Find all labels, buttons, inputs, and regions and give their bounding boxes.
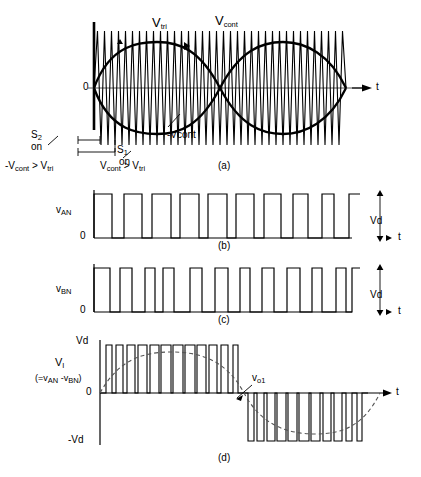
panel-c-axis-arrow bbox=[386, 309, 392, 315]
vtri-label: Vtri bbox=[152, 16, 167, 30]
panel-d-vd-bottom-label: -Vd bbox=[68, 435, 84, 445]
panel-c-t-label: t bbox=[398, 306, 401, 316]
panel-d-vd-top-label: Vd bbox=[76, 336, 88, 346]
s2-condition-label: -Vcont > Vtri bbox=[5, 161, 54, 172]
panel-b-t-label: t bbox=[398, 232, 401, 242]
neg-vcont-label: -Vcont bbox=[167, 130, 196, 140]
s2-label: S2 bbox=[31, 130, 42, 141]
panel-d-zero-label: 0 bbox=[86, 387, 92, 397]
van-pwm-wave bbox=[94, 194, 360, 238]
panel-b-vd-label: Vd bbox=[370, 216, 382, 226]
panel-a-t-label: t bbox=[376, 82, 379, 92]
panel-d-axis-arrow bbox=[383, 390, 392, 397]
panel-b-caption: (b) bbox=[218, 240, 230, 251]
panel-a-caption: (a) bbox=[218, 160, 230, 171]
vbn-label: vBN bbox=[56, 284, 71, 295]
panel-d-plot bbox=[0, 335, 421, 475]
vcont-label: Vcont bbox=[215, 14, 238, 28]
panel-d-t-label: t bbox=[396, 387, 399, 397]
vi-label: VI bbox=[55, 357, 64, 369]
s2-leader bbox=[48, 136, 58, 145]
panel-a-plot bbox=[0, 0, 421, 175]
panel-b-plot bbox=[0, 182, 421, 252]
vo1-label: vo1 bbox=[252, 373, 265, 384]
panel-c-caption: (c) bbox=[218, 314, 230, 325]
pwm-waveform-figure: Vtri Vcont 0 t -Vcont S2 on S1 on -Vcont… bbox=[0, 0, 421, 477]
panel-a-zero-label: 0 bbox=[83, 82, 89, 92]
vbn-pwm-wave bbox=[94, 268, 360, 312]
s1-condition-label: Vcont > Vtri bbox=[100, 161, 145, 172]
panel-b-axis-arrow bbox=[386, 235, 392, 241]
van-label: vAN bbox=[56, 205, 71, 216]
panel-a-axis-arrow bbox=[362, 85, 372, 92]
panel-b-zero-label: 0 bbox=[80, 231, 86, 241]
panel-c-zero-label: 0 bbox=[80, 305, 86, 315]
vo1-leader bbox=[237, 385, 252, 398]
panel-d-caption: (d) bbox=[218, 452, 230, 463]
vi-definition-label: (=vAN -vBN) bbox=[35, 374, 82, 384]
s2-state-label: on bbox=[31, 142, 42, 152]
panel-c-vd-label: Vd bbox=[370, 290, 382, 300]
s1-label: S1 bbox=[117, 145, 128, 156]
